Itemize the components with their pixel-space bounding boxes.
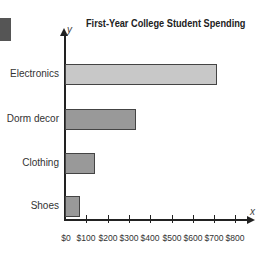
x-tick [129, 215, 130, 223]
x-tick [193, 215, 194, 223]
x-tick-label: $300 [119, 232, 138, 243]
x-tick-label: $100 [77, 232, 96, 243]
x-tick [86, 215, 87, 223]
x-tick-label: $700 [205, 232, 224, 243]
x-tick [150, 215, 151, 223]
chart-title: First-Year College Student Spending [86, 18, 245, 29]
x-tick-label: $400 [141, 232, 160, 243]
bar-dorm-decor [65, 109, 136, 130]
bar-clothing [65, 153, 95, 174]
category-label-dorm-decor: Dorm decor [7, 113, 59, 124]
category-label-clothing: Clothing [22, 157, 59, 168]
bar-shoes [65, 196, 80, 217]
x-tick [235, 215, 236, 223]
x-axis-label: x [250, 206, 255, 217]
y-axis-label: y [67, 24, 72, 35]
category-label-shoes: Shoes [31, 200, 59, 211]
x-axis [64, 219, 249, 221]
x-tick [108, 215, 109, 223]
x-tick [214, 215, 215, 223]
category-label-electronics: Electronics [10, 68, 59, 79]
bar-electronics [65, 64, 217, 85]
x-tick-label: $600 [183, 232, 202, 243]
x-tick-label: $500 [162, 232, 181, 243]
x-tick-label: $0 [61, 232, 71, 243]
x-tick-label: $200 [98, 232, 117, 243]
decorative-corner-block [0, 18, 11, 41]
x-tick [172, 215, 173, 223]
x-tick-label: $800 [226, 232, 245, 243]
